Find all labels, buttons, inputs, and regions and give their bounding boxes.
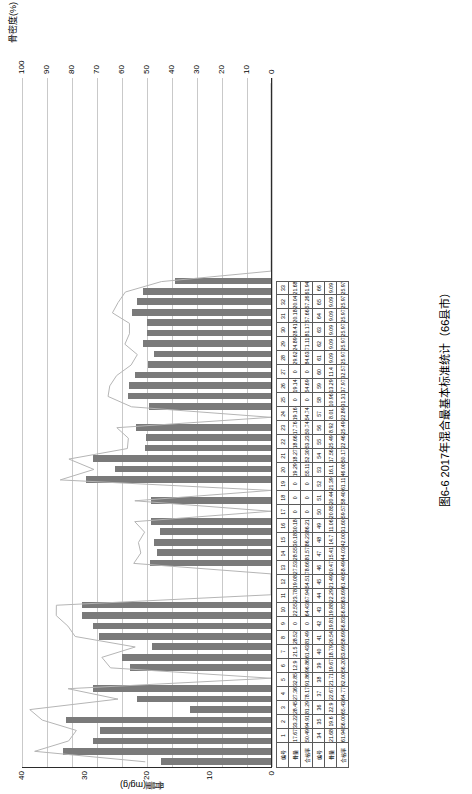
table-cell: 44 [313,589,325,603]
table-cell: 40 [313,645,325,659]
y-axis-right-title: 骨密度(%) [6,2,19,43]
y-axis-left-tick: 0 [268,771,276,789]
table-cell: 65 [313,295,325,309]
table-cell: 28.52 [289,631,301,645]
table-cell: 30.18 [289,519,301,533]
table-cell: 0 [301,491,313,505]
table-cell: 18 [277,491,289,505]
table-cell: 39 [313,659,325,673]
table-cell: 21.68 [289,281,301,295]
table-cell: 9.09 [325,323,337,337]
table-cell: 86.21 [301,519,313,533]
table-cell: 57.66 [301,309,313,323]
table-cell: 32.57 [337,365,349,379]
table-cell: 26 [277,379,289,393]
table-cell: 23.78 [289,589,301,603]
table-cell: 18.66 [289,435,301,449]
table-cell: 67.94 [301,589,313,603]
table-cell: 64.77 [337,687,349,701]
table-cell: 94.91 [301,715,313,729]
table-cell: 21.68 [325,729,337,743]
table-cell: 38 [313,673,325,687]
table-cell: 1 [277,729,289,743]
table-cell: 81.49 [301,631,313,645]
table-cell: 63.69 [337,589,349,603]
table-cell: 29.62 [289,351,301,365]
table-cell: 31.60 [337,519,349,533]
table-cell: 20.04 [289,295,301,309]
table-cell: 19.6 [325,715,337,729]
table-cell: 17.67 [289,729,301,743]
table-cell: 21 [277,449,289,463]
table-cell: 11.4 [325,365,337,379]
table-cell: 56.83 [337,603,349,617]
table-cell: 30 [277,323,289,337]
table-cell: 56 [313,421,325,435]
table-cell: 21.39 [325,477,337,491]
table-cell: 22.29 [325,589,337,603]
table-cell: 29 [277,337,289,351]
table-cell: 20.54 [325,631,337,645]
table-row-label: 编号 [313,743,325,768]
table-cell: 13.29 [325,379,337,393]
y-axis-right-tick: 0 [268,54,276,74]
table-cell: 64 [313,309,325,323]
table-cell: 58.49 [337,561,349,575]
table-row-rate-2: 合格率61.9456.0065.4364.7762.0056.2053.6958… [337,281,349,767]
table-cell: 63 [313,323,325,337]
table-cell: 33 [277,281,289,295]
table-cell: 0 [301,505,313,519]
table-cell: 61.40 [337,575,349,589]
table-cell: 19.08 [289,575,301,589]
table-cell: 25.49 [325,435,337,449]
table-cell: 10.96 [325,393,337,407]
table-cell: 9.09 [325,295,337,309]
table-cell: 22.9 [325,701,337,715]
table-cell: 20 [277,463,289,477]
table-cell: 25.97 [337,351,349,365]
table-cell: 4 [277,687,289,701]
table-cell: 37.97 [337,379,349,393]
table-cell: 86.23 [301,533,313,547]
table-cell: 28 [277,351,289,365]
table-cell: 21.71 [325,673,337,687]
table-cell: 28.41 [289,323,301,337]
table-cell: 19.67 [325,659,337,673]
table-cell: 58.40 [337,491,349,505]
table-cell: 9.09 [325,351,337,365]
table-cell: 16.1 [325,463,337,477]
table-cell: 12.9 [289,659,301,673]
table-cell: 78.66 [301,561,313,575]
table-cell: 42.00 [337,533,349,547]
y-axis-right-tick: 10 [243,54,251,74]
table-cell: 64.43 [301,603,313,617]
table-row-index-1: 编号12345678910111213141516171819202122232… [277,281,289,767]
y-axis-left-tick: 30 [81,771,89,789]
table-cell: 22.67 [325,687,337,701]
table-cell: 53.23 [301,435,313,449]
table-cell: 61.43 [301,645,313,659]
table-cell: 0 [289,505,301,519]
table-cell: 0 [289,477,301,491]
table-cell: 42 [313,617,325,631]
table-cell: 59 [313,379,325,393]
figure-page: 骨量(mg/g) 骨密度(%) 010203040 01020304050607… [0,0,472,794]
table-cell: 25.97 [337,281,349,295]
table-cell: 18.27 [289,449,301,463]
table-cell: 62 [313,337,325,351]
table-cell: 43 [313,603,325,617]
table-cell: 11.06 [325,519,337,533]
table-cell: 19.81 [325,617,337,631]
table-row-label: 骨量 [289,743,301,768]
y-axis-right-tick: 100 [18,54,26,74]
y-axis-right-tick: 60 [118,54,126,74]
y-axis-right-tick: 90 [43,54,51,74]
table-cell: 19.29 [289,463,301,477]
table-cell: 58.69 [337,631,349,645]
table-cell: 22 [277,435,289,449]
table-cell: 10 [277,603,289,617]
table-cell: 50.17 [337,449,349,463]
table-cell: 46.00 [337,463,349,477]
plot-area: 010203040 0102030405060708090100 [22,78,272,768]
table-cell: 19.88 [325,603,337,617]
